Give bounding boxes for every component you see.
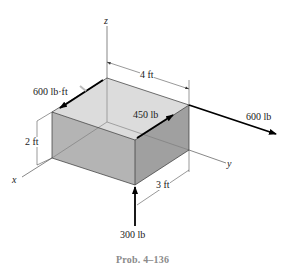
force-450-label: 450 lb xyxy=(133,110,158,120)
dim-height-label: 2 ft xyxy=(25,137,39,147)
box-diagram xyxy=(0,0,294,274)
x-axis-label: x xyxy=(12,175,16,185)
force-300-label: 300 lb xyxy=(120,230,145,240)
figure-caption: Prob. 4–136 xyxy=(116,254,169,265)
y-axis xyxy=(189,150,226,163)
force-600-label: 600 lb xyxy=(246,112,271,122)
dim-width-label: 3 ft xyxy=(156,180,170,190)
couple-moment-label: 600 lb·ft xyxy=(33,87,68,97)
dim-length-label: 4 ft xyxy=(140,70,154,80)
z-axis-label: z xyxy=(104,16,108,26)
y-axis-label: y xyxy=(227,159,231,169)
